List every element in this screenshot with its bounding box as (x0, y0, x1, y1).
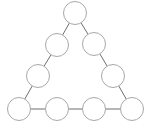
node-circle-left-2 (46, 34, 69, 57)
node-circle-top (64, 2, 87, 25)
edge-top-right-2 (81, 23, 88, 34)
edge-right-3-bottom-4 (119, 86, 127, 99)
triangle-circle-diagram (0, 0, 152, 128)
nodes-group (8, 2, 144, 121)
node-circle-bottom-3 (83, 98, 106, 121)
edge-top-left-2 (63, 23, 70, 35)
node-circle-right-3 (102, 65, 125, 88)
edge-left-3-bottom-1 (25, 86, 33, 99)
edge-left-2-left-3 (44, 55, 51, 66)
node-circle-bottom-1 (8, 98, 31, 121)
node-circle-left-3 (27, 65, 50, 88)
edge-right-2-right-3 (100, 54, 107, 66)
node-circle-bottom-4 (121, 98, 144, 121)
node-circle-bottom-2 (46, 98, 69, 121)
node-circle-right-2 (83, 33, 106, 56)
